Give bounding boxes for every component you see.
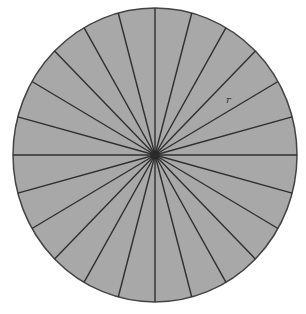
radius-label: r: [226, 94, 231, 105]
center-point: [151, 151, 160, 160]
sector-diagram: [0, 0, 306, 314]
